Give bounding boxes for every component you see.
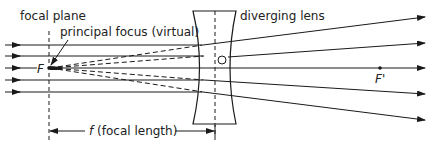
- outgoing-rays: [203, 17, 425, 120]
- second-focal-point-label: F': [375, 72, 385, 86]
- second-focal-point-dot: [378, 66, 382, 70]
- optical-centre-marker: [218, 56, 226, 64]
- focal-length-symbol: f: [89, 124, 95, 138]
- principal-focus-pointer: [51, 40, 68, 65]
- focal-point-label: F: [37, 62, 45, 76]
- focal-length-label: f (focal length): [89, 124, 177, 138]
- diverging-lens-label: diverging lens: [240, 9, 325, 23]
- principal-focus-label: principal focus (virtual): [60, 25, 199, 39]
- diverging-lens-diagram: focal plane principal focus (virtual) di…: [0, 0, 434, 145]
- focal-plane-label: focal plane: [20, 9, 86, 23]
- focal-length-text: (focal length): [97, 124, 177, 138]
